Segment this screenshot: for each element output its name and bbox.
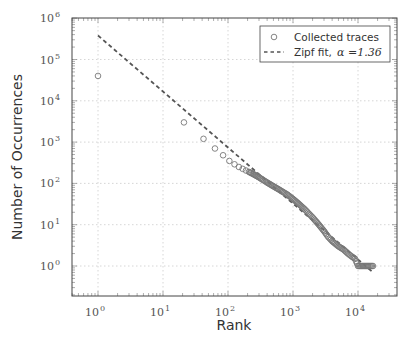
x-tick-label: 104 — [345, 304, 365, 319]
legend-item-zipf-fit: Zipf fit, — [294, 46, 332, 58]
x-tick-label: 100 — [85, 304, 105, 319]
collected-traces-points — [95, 73, 376, 269]
zipf-rank-chart: 100101102103104 100101102103104105106 Ra… — [0, 0, 416, 351]
y-tick-label: 102 — [40, 175, 60, 190]
x-axis-label: Rank — [217, 317, 253, 333]
x-tick-label: 101 — [150, 304, 170, 319]
x-tick-label: 103 — [280, 304, 300, 319]
y-tick-labels: 100101102103104105106 — [40, 10, 60, 273]
legend: Collected traces Zipf fit, α =1.36 — [260, 26, 390, 62]
y-axis-label: Number of Occurrences — [9, 74, 25, 240]
legend-alpha-value: α =1.36 — [337, 46, 382, 59]
y-tick-label: 105 — [40, 52, 60, 67]
y-tick-label: 106 — [40, 10, 60, 25]
legend-item-collected-traces: Collected traces — [294, 31, 379, 43]
y-tick-label: 103 — [40, 134, 60, 149]
y-tick-label: 104 — [40, 93, 60, 108]
y-tick-label: 101 — [40, 217, 60, 232]
y-tick-label: 100 — [40, 258, 60, 273]
